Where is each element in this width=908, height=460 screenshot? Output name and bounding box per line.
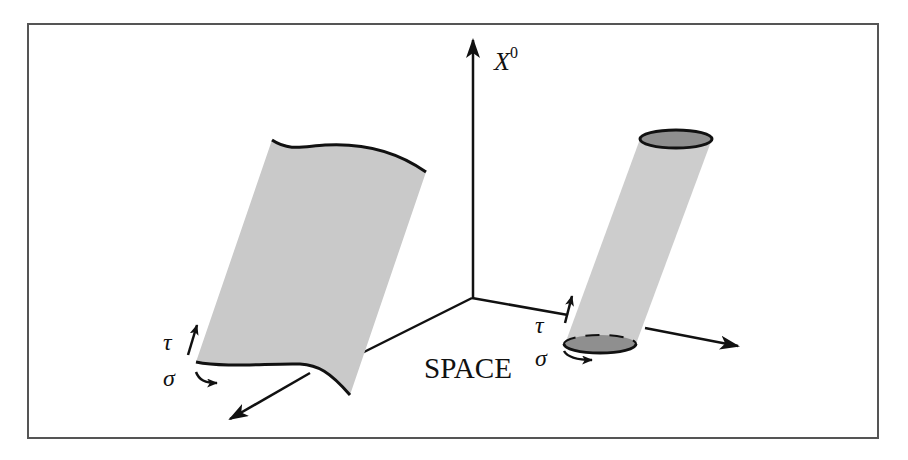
- closed-string-worldsheet: [564, 130, 712, 353]
- closed-string-tube-body: [565, 139, 712, 352]
- space-label: SPACE: [424, 351, 512, 384]
- closed-string-tau-label: τ: [535, 312, 545, 338]
- closed-string-tau-arrow-icon: [565, 296, 572, 323]
- worldsheet-diagram: X0 SPACE τ σ τ σ: [0, 0, 908, 460]
- closed-string-sigma-label: σ: [535, 345, 548, 371]
- closed-string-top-cap: [640, 130, 712, 148]
- open-string-tau-label: τ: [163, 329, 173, 355]
- open-string-sigma-arrow-icon: [196, 372, 217, 383]
- open-string-tau-arrow-icon: [188, 325, 197, 355]
- space-axis-right-segment-2: [645, 328, 738, 346]
- space-axis-diagonal-segment-2: [230, 373, 310, 419]
- time-axis-label: X0: [493, 44, 518, 76]
- space-axis-right-segment-1: [472, 298, 568, 315]
- open-string-sheet-surface: [196, 140, 426, 395]
- open-string-worldsheet: [196, 140, 426, 395]
- open-string-sigma-label: σ: [163, 365, 176, 391]
